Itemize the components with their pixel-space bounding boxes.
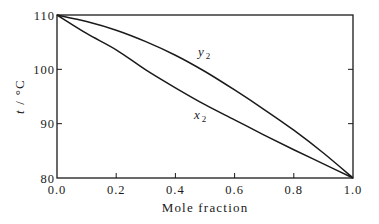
chart: 0.00.20.40.60.81.0 8090100110 Mole fract… [0, 0, 379, 224]
plot-frame [57, 15, 353, 178]
x-tick-label: 0.8 [284, 183, 303, 197]
y-tick-label: 100 [33, 63, 55, 77]
series-label-x2: x2 [193, 107, 206, 124]
x-tick-label: 1.0 [344, 183, 363, 197]
series-labels: y2x2 [193, 44, 210, 124]
curves [57, 15, 353, 178]
x-tick-label: 0.6 [225, 183, 244, 197]
y-tick-label: 110 [34, 9, 55, 23]
curve-y2 [57, 15, 353, 178]
x-axis-title: Mole fraction [162, 200, 249, 215]
x-tick-label: 0.4 [166, 183, 185, 197]
y-tick-label: 90 [41, 117, 56, 131]
y-axis-title: t / °C [12, 79, 27, 114]
x-tick-label: 0.2 [107, 183, 126, 197]
y-tick-label: 80 [41, 172, 56, 186]
y-axis-ticks: 8090100110 [33, 9, 353, 186]
series-label-y2: y2 [196, 44, 210, 61]
x-axis-ticks: 0.00.20.40.60.81.0 [48, 173, 363, 197]
curve-x2 [57, 15, 353, 178]
